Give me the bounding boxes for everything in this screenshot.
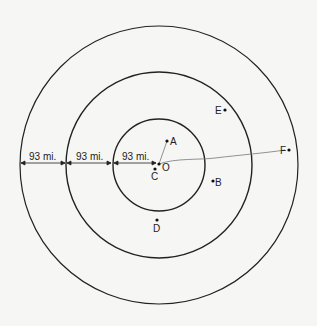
path-o-a	[159, 141, 167, 164]
concentric-circles-diagram: 93 mi. 93 mi. 93 mi. O A B C D E F	[0, 0, 317, 326]
point-d-label: D	[153, 223, 160, 234]
path-o-f	[159, 150, 285, 164]
point-e-label: E	[215, 105, 222, 116]
diagram-canvas: 93 mi. 93 mi. 93 mi. O A B C D E F	[0, 0, 317, 326]
center-label: O	[162, 162, 170, 173]
point-c-label: C	[151, 171, 158, 182]
distance-label-1: 93 mi.	[29, 151, 56, 162]
point-b-label: B	[215, 177, 222, 188]
distance-label-3: 93 mi.	[122, 151, 149, 162]
point-a-label: A	[170, 136, 177, 147]
distance-label-2: 93 mi.	[76, 151, 103, 162]
point-f-label: F	[280, 145, 286, 156]
points	[153, 108, 290, 221]
